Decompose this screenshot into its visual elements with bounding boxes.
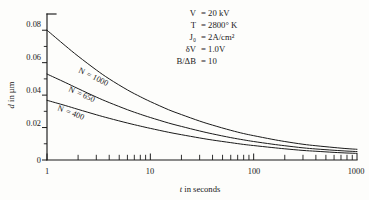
svg-text:J₀: J₀	[190, 32, 196, 42]
annotation-4-value: = 1.0V	[201, 44, 226, 54]
annotation-1-symbol: V	[190, 8, 197, 18]
x-axis-title: t in seconds	[180, 184, 221, 194]
y-tick-label-3: 0.06	[26, 53, 41, 62]
annotation-5-symbol: B/ΔB	[176, 56, 196, 66]
curve-label-n1000-value: = 1000	[85, 70, 110, 88]
x-axis-ticks	[47, 154, 357, 161]
svg-text:T: T	[191, 20, 197, 30]
curve-label-n1000: N= 1000	[77, 66, 110, 88]
chart-figure: 0 0.02 0.04 0.06 0.08 1 10 100 1000 d in…	[0, 0, 369, 200]
svg-text:δV: δV	[186, 44, 197, 54]
parameter-annotation-block: V = 20 kV T = 2800° K J₀ = 2A/cm² δV = 1…	[176, 8, 238, 66]
svg-text:d in µm: d in µm	[6, 81, 16, 108]
x-tick-label-3: 1000	[348, 167, 365, 176]
y-tick-label-0: 0	[37, 156, 41, 165]
x-tick-label-0: 1	[45, 167, 49, 176]
svg-text:N= 1000: N= 1000	[77, 66, 110, 88]
curve-label-n400-symbol: N	[56, 103, 65, 114]
annotation-3-symbol: J₀	[190, 32, 196, 42]
annotation-2-symbol: T	[191, 20, 197, 30]
x-tick-label-1: 10	[146, 167, 154, 176]
y-axis-title-rest: in µm	[6, 81, 16, 104]
svg-text:N= 650: N= 650	[67, 85, 96, 105]
y-tick-label-2: 0.04	[26, 86, 41, 95]
y-axis-title: d in µm	[6, 81, 16, 108]
annotation-5-value: = 10	[201, 56, 217, 66]
curve-label-n1000-symbol: N	[77, 66, 86, 77]
svg-text:V: V	[190, 8, 197, 18]
curve-n-650	[47, 74, 357, 152]
x-tick-label-2: 100	[248, 167, 261, 176]
y-axis-ticks	[42, 30, 47, 160]
curve-label-n650: N= 650	[67, 85, 96, 105]
curve-label-n400: N= 400	[56, 103, 85, 121]
curve-label-n650-symbol: N	[67, 85, 76, 96]
curve-label-n400-value: = 400	[65, 107, 86, 122]
annotation-1-value: = 20 kV	[201, 8, 230, 18]
annotation-3-value: = 2A/cm²	[201, 32, 235, 42]
svg-text:N= 400: N= 400	[56, 103, 85, 121]
svg-text:B/ΔB: B/ΔB	[176, 56, 196, 66]
curve-label-n650-value: = 650	[75, 88, 96, 104]
y-tick-label-4: 0.08	[26, 20, 41, 29]
annotation-2-value: = 2800° K	[201, 20, 238, 30]
x-axis-title-rest: in seconds	[182, 184, 221, 194]
y-tick-label-1: 0.02	[26, 119, 41, 128]
annotation-4-symbol: δV	[186, 44, 197, 54]
